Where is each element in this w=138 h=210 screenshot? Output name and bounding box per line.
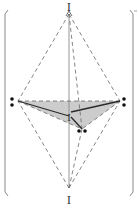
left-dot-upper [10, 97, 14, 101]
lower-dot-right [83, 129, 87, 133]
right-dot-lower [122, 103, 126, 107]
lower-dot-left [77, 129, 81, 133]
polytope-diagram: I I I [0, 0, 138, 210]
right-bracket [130, 10, 133, 196]
left-bracket [5, 10, 8, 196]
center-label: I [67, 113, 71, 123]
right-dot-upper [122, 97, 126, 101]
left-dot-lower [10, 103, 14, 107]
bottom-label: I [67, 194, 71, 207]
top-label: I [67, 1, 71, 14]
